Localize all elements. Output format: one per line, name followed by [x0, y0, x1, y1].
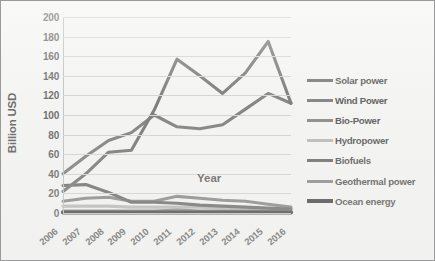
y-tick-label: 20	[27, 188, 59, 199]
y-axis-title: Billion USD	[3, 63, 21, 183]
gridline	[63, 37, 291, 38]
legend-item[interactable]: Wind Power	[307, 90, 433, 110]
y-axis-title-label: Billion USD	[6, 93, 18, 153]
y-tick-label: 0	[27, 208, 59, 219]
y-tick-label: 140	[27, 70, 59, 81]
legend-item-label: Geothermal power	[335, 176, 415, 187]
gridline	[63, 115, 291, 116]
gridline	[63, 193, 291, 194]
gridline	[63, 76, 291, 77]
x-tick-label: 2011	[151, 226, 173, 247]
legend-item[interactable]: Solar power	[307, 70, 433, 90]
legend-color-swatch	[307, 99, 333, 102]
chart-legend: Solar powerWind PowerBio-PowerHydropower…	[307, 70, 433, 211]
legend-color-swatch	[307, 180, 333, 183]
gridline	[63, 174, 291, 175]
legend-color-swatch	[307, 159, 333, 162]
x-tick-label: 2007	[60, 226, 83, 248]
legend-item-label: Solar power	[335, 75, 387, 86]
plot-area	[63, 17, 291, 213]
gridline	[63, 213, 291, 214]
gridline	[63, 135, 291, 136]
x-tick-label: 2009	[105, 226, 128, 248]
legend-item-label: Bio-Power	[335, 115, 380, 126]
gridline	[63, 17, 291, 18]
legend-item[interactable]: Bio-Power	[307, 110, 433, 130]
y-tick-label: 80	[27, 129, 59, 140]
x-tick-label: 2006	[37, 226, 60, 248]
gridline	[63, 56, 291, 57]
y-tick-label: 120	[27, 90, 59, 101]
x-tick-label: 2008	[83, 226, 106, 248]
legend-item[interactable]: Ocean energy	[307, 191, 433, 211]
legend-item-label: Wind Power	[335, 95, 387, 106]
legend-item[interactable]: Geothermal power	[307, 171, 433, 191]
y-tick-label: 40	[27, 168, 59, 179]
y-tick-label: 60	[27, 149, 59, 160]
legend-item-label: Hydropower	[335, 135, 388, 146]
legend-color-swatch	[307, 119, 333, 122]
y-tick-label: 100	[27, 110, 59, 121]
gridlines-layer	[63, 17, 291, 213]
x-tick-label: 2014	[219, 226, 242, 248]
legend-item[interactable]: Hydropower	[307, 131, 433, 151]
x-axis-ticks: 2006200720082009201020112012201320142015…	[63, 215, 291, 259]
gridline	[63, 95, 291, 96]
legend-color-swatch	[307, 79, 333, 82]
legend-item-label: Ocean energy	[335, 196, 395, 207]
legend-item[interactable]: Biofuels	[307, 151, 433, 171]
x-axis-title: Year	[197, 172, 221, 184]
legend-item-label: Biofuels	[335, 155, 371, 166]
gridline	[63, 154, 291, 155]
legend-color-swatch	[307, 199, 333, 203]
x-tick-label: 2010	[128, 226, 151, 248]
y-tick-label: 200	[27, 12, 59, 23]
legend-color-swatch	[307, 139, 333, 142]
y-axis-ticks: 020406080100120140160180200	[23, 17, 59, 213]
x-tick-label: 2013	[197, 226, 220, 248]
y-tick-label: 180	[27, 31, 59, 42]
x-tick-label: 2015	[242, 226, 265, 248]
x-tick-label: 2016	[265, 226, 288, 248]
y-tick-label: 160	[27, 51, 59, 62]
line-chart: Billion USD 020406080100120140160180200 …	[0, 0, 435, 261]
x-tick-label: 2012	[174, 226, 197, 248]
